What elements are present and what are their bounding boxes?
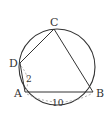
segment-bc [54, 29, 93, 92]
label-a: A [13, 87, 23, 100]
label-d: D [9, 57, 18, 70]
measure-ab: 10 [52, 98, 64, 108]
label-b: B [96, 87, 104, 100]
geometry-diagram: C D A B 2 10 [0, 0, 112, 128]
measure-ad: 2 [26, 74, 32, 84]
label-c: C [50, 16, 58, 29]
circumscribed-circle [19, 29, 95, 105]
